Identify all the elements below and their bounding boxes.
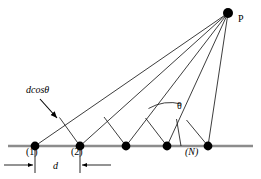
point-p-label: P xyxy=(238,14,244,24)
element-dot-n xyxy=(204,142,213,151)
path-difference-label: dcosθ xyxy=(26,85,49,95)
perpendicular-4 xyxy=(146,118,168,146)
point-p-dot xyxy=(223,8,233,18)
element-1-label: (1) xyxy=(26,147,38,157)
theta-angle-label: θ xyxy=(177,101,182,111)
perpendicular-3 xyxy=(104,117,126,146)
ray-group xyxy=(35,13,228,146)
element-dot-4 xyxy=(163,142,172,151)
ray-element-2 xyxy=(80,13,228,146)
dcos-callout-arrow xyxy=(40,99,57,118)
ray-element-3 xyxy=(126,13,228,146)
element-n-label: (N) xyxy=(185,147,198,157)
element-dot-3 xyxy=(122,142,131,151)
array-geometry-diagram: P dcosθ θ (1) (2) (N) d xyxy=(0,0,261,179)
ray-element-n xyxy=(208,13,228,146)
perpendicular-n xyxy=(187,120,209,146)
perpendicular-group xyxy=(60,117,209,146)
ray-element-1 xyxy=(35,13,228,146)
element-2-label: (2) xyxy=(71,147,83,157)
ray-element-4 xyxy=(167,13,228,146)
vertical-reference-line xyxy=(177,119,182,146)
spacing-label: d xyxy=(53,161,58,171)
